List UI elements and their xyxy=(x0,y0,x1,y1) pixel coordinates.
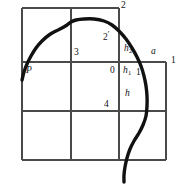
label-2: 2 xyxy=(121,1,126,11)
label-h: h xyxy=(125,89,130,99)
label-2-prime: 2′ xyxy=(103,30,110,43)
label-1: 1 xyxy=(171,56,176,66)
label-P: P xyxy=(26,66,32,76)
diagram-canvas xyxy=(0,0,181,196)
label-1-prime: 1′ xyxy=(136,65,143,78)
label-3: 3 xyxy=(74,48,79,58)
label-4: 4 xyxy=(104,100,109,110)
label-h1: h1 xyxy=(123,66,131,76)
label-h2: h2 xyxy=(124,44,132,54)
label-a: a xyxy=(151,47,156,57)
label-0: 0 xyxy=(110,66,115,76)
figure-container: 22′3h2a1P0h11′h4 xyxy=(0,0,181,196)
